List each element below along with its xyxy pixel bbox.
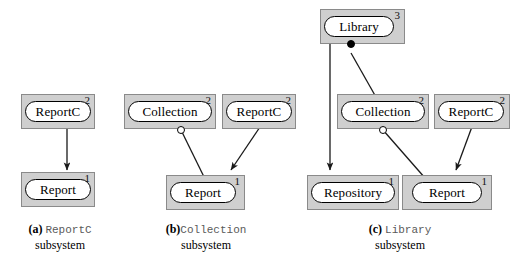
class-node-reportc-c[interactable]: ReportC	[438, 101, 504, 122]
connector-origin-hollow-circle-b	[177, 126, 185, 134]
edge-b-reportc-to-report	[231, 124, 262, 170]
class-node-repository-c[interactable]: Repository	[311, 182, 395, 203]
class-node-collection-c[interactable]: Collection	[341, 101, 425, 122]
caption-name-b: Collection	[180, 224, 246, 236]
caption-name-a: ReportC	[45, 224, 91, 236]
caption-subsystem-a: (a) ReportC subsystem	[5, 222, 115, 253]
figure-canvas: 2 ReportC 1 Report (a) ReportC subsystem…	[0, 0, 532, 268]
caption-suffix-a: subsystem	[5, 238, 115, 253]
caption-suffix-c: subsystem	[320, 238, 480, 253]
level-label: 1	[482, 175, 488, 187]
caption-subsystem-b: (b)Collection subsystem	[150, 222, 262, 253]
class-node-report-a[interactable]: Report	[25, 179, 91, 200]
class-node-collection-b[interactable]: Collection	[128, 101, 212, 122]
connector-origin-hollow-circle-c	[379, 126, 387, 134]
level-label: 3	[395, 9, 401, 21]
caption-suffix-b: subsystem	[150, 238, 262, 253]
class-node-report-b[interactable]: Report	[170, 182, 236, 203]
class-node-library-c[interactable]: Library	[324, 16, 394, 37]
level-label: 1	[235, 175, 241, 187]
class-node-report-c[interactable]: Report	[412, 182, 482, 203]
class-node-reportc-b[interactable]: ReportC	[226, 101, 292, 122]
caption-tag-b: (b)	[166, 222, 181, 236]
class-node-reportc-a[interactable]: ReportC	[25, 101, 91, 122]
caption-tag-a: (a)	[28, 222, 42, 236]
caption-name-c: Library	[385, 224, 431, 236]
caption-tag-c: (c)	[369, 222, 382, 236]
caption-subsystem-c: (c) Library subsystem	[320, 222, 480, 253]
connector-origin-filled-dot-c	[347, 40, 355, 48]
edge-c-reportc-to-report	[456, 124, 473, 170]
